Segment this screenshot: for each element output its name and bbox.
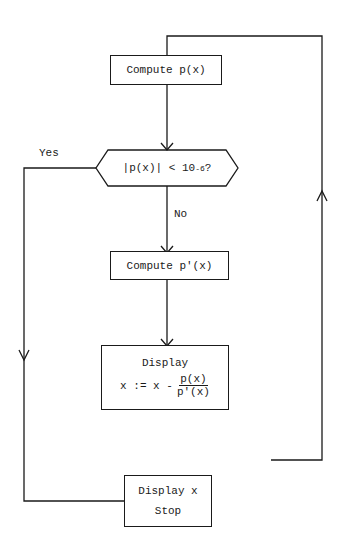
update-box: Display x := x - p(x) p'(x) [101,345,229,410]
abs-left: | [123,162,130,174]
yes-label: Yes [39,147,59,159]
decision-node: |p(x)| < 10-6? [96,151,238,185]
fraction-numerator: p(x) [179,373,207,386]
update-formula: x := x - p(x) p'(x) [120,373,210,398]
decision-question: ? [205,162,212,174]
decision-expr: p(x) [129,162,155,174]
yes-path-line [24,168,124,501]
formula-fraction: p(x) p'(x) [177,373,210,398]
stop-line2: Stop [155,505,181,517]
stop-box: Display x Stop [124,475,212,527]
decision-exponent: -6 [195,164,205,173]
compute-dp-label: Compute p'(x) [127,260,213,272]
formula-lhs: x := x - [120,380,173,392]
compute-p-box: Compute p(x) [110,55,222,85]
update-title: Display [142,357,188,369]
no-label: No [174,208,187,220]
stop-line1: Display x [138,485,197,497]
fraction-denominator: p'(x) [177,386,210,398]
compute-dp-box: Compute p'(x) [110,251,229,280]
compute-p-label: Compute p(x) [126,64,205,76]
decision-op: < 10 [162,162,195,174]
abs-right: | [156,162,163,174]
